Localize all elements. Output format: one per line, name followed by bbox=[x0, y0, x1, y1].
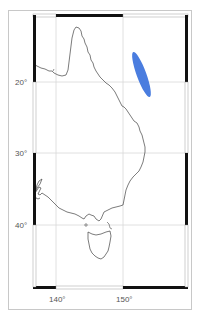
frame-bottom-white-1 bbox=[56, 286, 123, 289]
frame-bottom-black-2 bbox=[123, 286, 188, 289]
frame-right-white-1 bbox=[185, 82, 188, 153]
frame-top-white-2 bbox=[123, 14, 188, 17]
lat-label-30: 30° bbox=[15, 150, 27, 158]
frame-right-white-2 bbox=[185, 225, 188, 287]
map-canvas bbox=[0, 0, 197, 313]
frame-top-white-1 bbox=[33, 14, 56, 17]
frame-left-white-1 bbox=[33, 82, 36, 153]
frame-left-black-1 bbox=[33, 15, 36, 82]
frame-right-black-2 bbox=[185, 153, 188, 225]
frame-top-black-1 bbox=[56, 14, 123, 17]
frame-right-black-1 bbox=[185, 15, 188, 82]
lon-label-150: 150° bbox=[116, 296, 133, 304]
lat-label-40: 40° bbox=[15, 222, 27, 230]
frame-left-black-2 bbox=[33, 153, 36, 225]
frame-bottom-black-1 bbox=[33, 286, 56, 289]
lat-label-20: 20° bbox=[15, 79, 27, 87]
lon-label-140: 140° bbox=[49, 296, 66, 304]
frame-left-white-2 bbox=[33, 225, 36, 287]
